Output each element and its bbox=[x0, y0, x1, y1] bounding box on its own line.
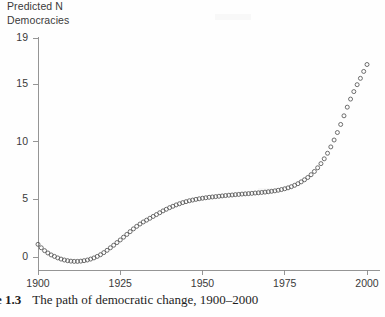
data-point bbox=[335, 131, 339, 135]
data-point bbox=[355, 83, 359, 87]
data-point bbox=[312, 169, 316, 173]
data-point bbox=[349, 97, 353, 101]
y-axis-tick-label: 19 bbox=[4, 31, 28, 43]
x-axis-tick-label: 1975 bbox=[265, 277, 305, 289]
x-axis-tick-label: 1950 bbox=[183, 277, 223, 289]
x-axis-tick-label: 1925 bbox=[100, 277, 140, 289]
data-point bbox=[365, 63, 369, 67]
data-point bbox=[322, 157, 326, 161]
y-axis-tick-label: 15 bbox=[4, 77, 28, 89]
figure-container: Predicted N Democracies 05101519 1900192… bbox=[0, 0, 385, 317]
data-point bbox=[362, 69, 366, 73]
x-axis-tick-label: 2000 bbox=[347, 277, 385, 289]
data-point bbox=[332, 138, 336, 142]
data-point bbox=[339, 122, 343, 126]
y-axis-tick-label: 10 bbox=[4, 135, 28, 147]
axes bbox=[33, 37, 380, 275]
figure-caption: e 1.3The path of democratic change, 1900… bbox=[0, 292, 385, 314]
y-axis-tick-label: 0 bbox=[4, 250, 28, 262]
figure-number: e 1.3 bbox=[0, 292, 21, 307]
plot-area bbox=[0, 0, 385, 285]
y-axis-tick-label: 5 bbox=[4, 192, 28, 204]
data-point bbox=[316, 166, 320, 170]
data-point bbox=[326, 151, 330, 155]
data-point bbox=[329, 145, 333, 149]
data-points bbox=[36, 63, 369, 264]
data-point bbox=[345, 105, 349, 109]
data-point bbox=[342, 114, 346, 118]
data-point bbox=[358, 76, 362, 80]
figure-caption-text: The path of democratic change, 1900–2000 bbox=[32, 292, 258, 307]
data-point bbox=[309, 173, 313, 177]
data-point bbox=[319, 162, 323, 166]
x-axis-tick-label: 1900 bbox=[18, 277, 58, 289]
data-point bbox=[352, 90, 356, 94]
